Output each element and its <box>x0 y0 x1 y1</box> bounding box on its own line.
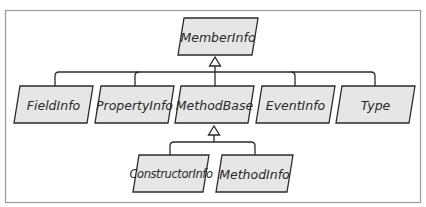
node-propertyinfo[interactable]: PropertyInfo <box>95 86 174 123</box>
class-hierarchy-diagram: MemberInfo FieldInfo PropertyInfo Method… <box>0 0 426 207</box>
node-type[interactable]: Type <box>336 86 415 123</box>
node-label: MemberInfo <box>180 30 255 45</box>
node-eventinfo[interactable]: EventInfo <box>256 86 335 123</box>
node-methodbase[interactable]: MethodBase <box>175 86 254 123</box>
node-methodinfo[interactable]: MethodInfo <box>216 155 293 192</box>
node-label: EventInfo <box>266 98 326 113</box>
node-label: PropertyInfo <box>96 98 173 113</box>
node-label: Type <box>361 98 391 113</box>
node-memberinfo[interactable]: MemberInfo <box>178 18 258 55</box>
node-fieldinfo[interactable]: FieldInfo <box>14 86 93 123</box>
node-constructorinfo[interactable]: ConstructorInfo <box>129 155 213 192</box>
node-label: FieldInfo <box>27 98 81 113</box>
node-label: MethodBase <box>176 98 254 113</box>
node-label: ConstructorInfo <box>129 167 213 181</box>
node-label: MethodInfo <box>219 167 290 182</box>
